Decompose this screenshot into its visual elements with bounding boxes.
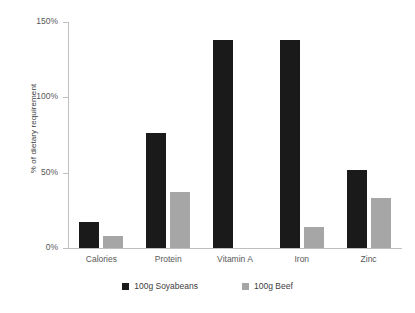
- bar: [371, 198, 391, 248]
- bar: [170, 192, 190, 248]
- bar: [146, 133, 166, 248]
- y-axis-tick-mark: [63, 173, 68, 174]
- x-axis-category-label: Zinc: [335, 254, 402, 264]
- y-axis-tick-label: 50%: [41, 167, 58, 177]
- y-axis-line: [68, 22, 69, 249]
- bar: [347, 170, 367, 248]
- bar: [304, 227, 324, 248]
- legend-item[interactable]: 100g Soyabeans: [122, 281, 198, 291]
- bar: [213, 40, 233, 248]
- x-axis-category-label: Protein: [135, 254, 202, 264]
- legend-label: 100g Soyabeans: [134, 281, 198, 291]
- y-axis-tick-label: 150%: [36, 16, 58, 26]
- y-axis-title: % of dietary requirement: [29, 39, 38, 219]
- legend-item[interactable]: 100g Beef: [242, 281, 293, 291]
- bar: [79, 222, 99, 248]
- legend-label: 100g Beef: [254, 281, 293, 291]
- y-axis-tick-mark: [63, 248, 68, 249]
- y-axis-tick-mark: [63, 97, 68, 98]
- y-axis-tick-label: 0%: [46, 242, 58, 252]
- legend-swatch-icon: [122, 283, 129, 290]
- y-axis-tick-mark: [63, 22, 68, 23]
- bar: [103, 236, 123, 248]
- y-axis-tick-label: 100%: [36, 91, 58, 101]
- x-axis-line: [68, 248, 402, 249]
- bar-chart: % of dietary requirement 0%50%100%150% C…: [0, 0, 415, 313]
- x-axis-category-label: Iron: [268, 254, 335, 264]
- bar: [280, 40, 300, 248]
- chart-legend: 100g Soyabeans100g Beef: [0, 281, 415, 291]
- x-axis-category-label: Calories: [68, 254, 135, 264]
- legend-swatch-icon: [242, 283, 249, 290]
- x-axis-category-label: Vitamin A: [202, 254, 269, 264]
